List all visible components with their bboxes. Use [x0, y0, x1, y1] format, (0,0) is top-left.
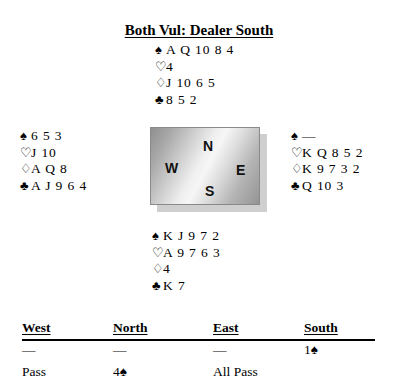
- auction-header-south: South: [304, 320, 338, 336]
- compass-box: N W E S: [150, 127, 260, 205]
- auction-header-rule: [22, 339, 375, 341]
- hand-east-diamonds: ♢K 9 7 3 2: [291, 161, 363, 178]
- deal-title-text: Both Vul: Dealer South: [125, 22, 274, 38]
- hand-west-diamonds-cards: A Q 8: [31, 161, 68, 176]
- compass-label-east: E: [236, 163, 245, 177]
- club-icon: ♣: [155, 92, 166, 109]
- spade-icon: ♠: [152, 228, 163, 245]
- hand-south-spades: ♠K J 9 7 2: [152, 228, 221, 245]
- club-icon: ♣: [20, 178, 31, 195]
- diamond-icon: ♢: [152, 261, 163, 278]
- hand-west-diamonds: ♢A Q 8: [20, 161, 87, 178]
- hand-north-diamonds-cards: J 10 6 5: [166, 75, 216, 90]
- auction-header-north: North: [113, 320, 148, 336]
- hand-west-spades: ♠6 5 3: [20, 128, 87, 145]
- auction-row-0-south: 1♠: [304, 342, 318, 358]
- heart-icon: ♡: [155, 59, 166, 76]
- compass-label-north: N: [203, 139, 213, 153]
- hand-south-hearts-cards: A 9 7 6 3: [163, 245, 221, 260]
- hand-south-diamonds-cards: 4: [163, 261, 171, 276]
- auction-row-1-east: All Pass: [213, 364, 258, 380]
- hand-east-diamonds-cards: K 9 7 3 2: [302, 161, 360, 176]
- hand-north-hearts: ♡4: [155, 59, 234, 76]
- hand-east-hearts-cards: K Q 8 5 2: [302, 145, 363, 160]
- diamond-icon: ♢: [155, 75, 166, 92]
- hand-east-clubs-cards: Q 10 3: [302, 178, 344, 193]
- auction-table: West North East South — — — 1♠ Pass 4♠ A…: [0, 316, 398, 387]
- compass-rose: N W E S: [150, 127, 270, 215]
- diamond-icon: ♢: [291, 161, 302, 178]
- hand-west-clubs-cards: A J 9 6 4: [31, 178, 87, 193]
- hand-south-hearts: ♡A 9 7 6 3: [152, 245, 221, 262]
- hand-south: ♠K J 9 7 2 ♡A 9 7 6 3 ♢4 ♣K 7: [152, 228, 221, 294]
- hand-north-diamonds: ♢J 10 6 5: [155, 75, 234, 92]
- auction-row-1-north: 4♠: [113, 364, 127, 380]
- hand-west-hearts: ♡J 10: [20, 145, 87, 162]
- bridge-deal-diagram: Both Vul: Dealer South ♠A Q 10 8 4 ♡4 ♢J…: [0, 0, 398, 310]
- deal-title: Both Vul: Dealer South: [0, 22, 398, 39]
- compass-label-west: W: [165, 161, 178, 175]
- hand-east-spades-cards: —: [302, 128, 316, 143]
- auction-row-0-west: —: [22, 342, 36, 358]
- hand-south-spades-cards: K J 9 7 2: [163, 228, 220, 243]
- spade-icon: ♠: [291, 128, 302, 145]
- hand-north-spades: ♠A Q 10 8 4: [155, 42, 234, 59]
- hand-north-clubs-cards: 8 5 2: [166, 92, 198, 107]
- diamond-icon: ♢: [20, 161, 31, 178]
- heart-icon: ♡: [291, 145, 302, 162]
- hand-east-clubs: ♣Q 10 3: [291, 178, 363, 195]
- hand-north-hearts-cards: 4: [166, 59, 174, 74]
- auction-header-west: West: [22, 320, 51, 336]
- hand-east: ♠— ♡K Q 8 5 2 ♢K 9 7 3 2 ♣Q 10 3: [291, 128, 363, 194]
- hand-east-hearts: ♡K Q 8 5 2: [291, 145, 363, 162]
- auction-row-0-north: —: [113, 342, 127, 358]
- spade-icon: ♠: [155, 42, 166, 59]
- hand-south-clubs-cards: K 7: [163, 278, 186, 293]
- hand-south-clubs: ♣K 7: [152, 278, 221, 295]
- heart-icon: ♡: [20, 145, 31, 162]
- hand-west-hearts-cards: J 10: [31, 145, 57, 160]
- hand-west-spades-cards: 6 5 3: [31, 128, 63, 143]
- hand-north-clubs: ♣8 5 2: [155, 92, 234, 109]
- hand-south-diamonds: ♢4: [152, 261, 221, 278]
- auction-header-east: East: [213, 320, 239, 336]
- compass-label-south: S: [205, 184, 214, 198]
- club-icon: ♣: [152, 278, 163, 295]
- hand-west-clubs: ♣A J 9 6 4: [20, 178, 87, 195]
- auction-row-1-west: Pass: [22, 364, 46, 380]
- hand-north-spades-cards: A Q 10 8 4: [166, 42, 234, 57]
- spade-icon: ♠: [20, 128, 31, 145]
- hand-east-spades: ♠—: [291, 128, 363, 145]
- heart-icon: ♡: [152, 245, 163, 262]
- auction-row-0-east: —: [213, 342, 227, 358]
- hand-west: ♠6 5 3 ♡J 10 ♢A Q 8 ♣A J 9 6 4: [20, 128, 87, 194]
- club-icon: ♣: [291, 178, 302, 195]
- hand-north: ♠A Q 10 8 4 ♡4 ♢J 10 6 5 ♣8 5 2: [155, 42, 234, 108]
